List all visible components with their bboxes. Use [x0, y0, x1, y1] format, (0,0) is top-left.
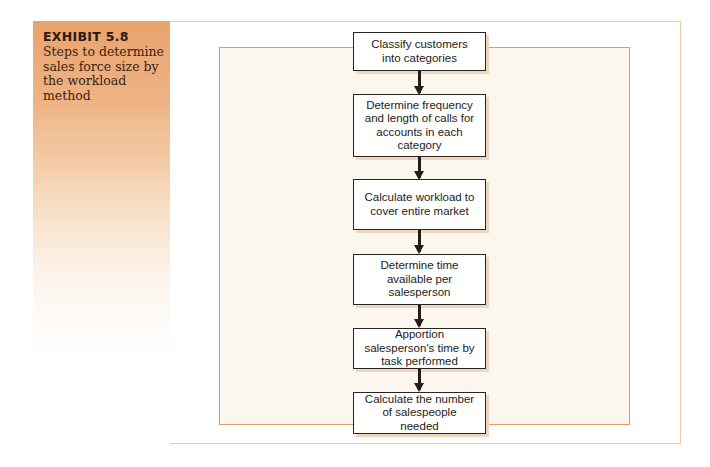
exhibit-side-panel: EXHIBIT 5.8 Steps to determine sales for…	[33, 21, 170, 444]
flow-step-apportion-time: Apportion salesperson's time by task per…	[353, 328, 486, 369]
flow-arrow-down-icon	[418, 157, 421, 178]
flow-step-classify-customers: Classify customers into categories	[353, 32, 486, 71]
flow-step-call-frequency: Determine frequency and length of calls …	[353, 94, 486, 157]
flow-step-time-available: Determine time available per salesperson	[353, 254, 486, 305]
exhibit-number: EXHIBIT 5.8	[43, 29, 129, 44]
flow-step-calculate-workload: Calculate workload to cover entire marke…	[353, 179, 486, 230]
flow-step-salespeople-needed: Calculate the number of salespeople need…	[353, 392, 486, 434]
flow-arrow-down-icon	[418, 369, 421, 390]
exhibit-caption: Steps to determine sales force size by t…	[43, 45, 168, 103]
flow-arrow-down-icon	[418, 230, 421, 252]
flow-arrow-down-icon	[418, 305, 421, 326]
flow-arrow-down-icon	[418, 71, 421, 93]
